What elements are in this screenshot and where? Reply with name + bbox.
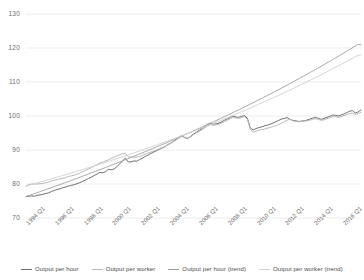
legend-item[interactable]: Output per worker: [92, 266, 156, 272]
y-axis-tick-label: 100: [0, 112, 20, 119]
y-axis-tick-label: 120: [0, 44, 20, 51]
chart-legend: Output per hourOutput per workerOutput p…: [0, 262, 364, 276]
legend-swatch-icon: [21, 269, 32, 270]
series-line-2: [26, 45, 361, 197]
legend-item-label: Output per worker (trend): [273, 266, 343, 272]
legend-item-label: Output per worker: [106, 266, 156, 272]
y-axis-tick-label: 70: [0, 214, 20, 221]
y-axis-tick-label: 110: [0, 78, 20, 85]
legend-swatch-icon: [92, 269, 103, 270]
legend-item[interactable]: Output per hour (trend): [168, 266, 246, 272]
legend-item-label: Output per hour (trend): [182, 266, 246, 272]
gridlines: [26, 14, 361, 218]
legend-swatch-icon: [168, 269, 179, 270]
chart-plot-area: [0, 0, 364, 280]
legend-item[interactable]: Output per worker (trend): [259, 266, 343, 272]
series-line-1: [26, 112, 361, 186]
data-series-group: [26, 45, 361, 197]
series-line-3: [26, 55, 361, 186]
productivity-line-chart: 708090100110120130 1994 Q11996 Q11998 Q1…: [0, 0, 364, 280]
y-axis-tick-label: 90: [0, 146, 20, 153]
legend-item-label: Output per hour: [35, 266, 79, 272]
legend-item[interactable]: Output per hour: [21, 266, 79, 272]
legend-swatch-icon: [259, 269, 270, 270]
y-axis-tick-label: 80: [0, 180, 20, 187]
y-axis-tick-label: 130: [0, 10, 20, 17]
